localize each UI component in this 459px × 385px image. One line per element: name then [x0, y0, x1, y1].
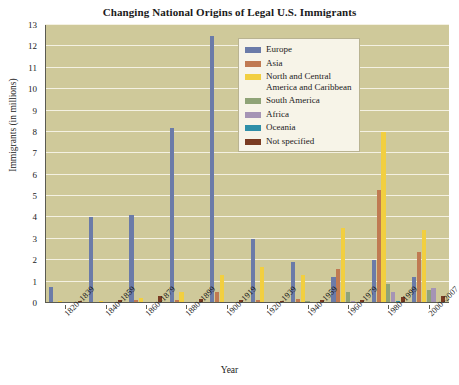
- bar: [210, 36, 214, 303]
- y-axis-tick-label: 5: [33, 191, 38, 201]
- bar: [175, 300, 179, 303]
- legend-swatch-icon: [245, 139, 261, 145]
- bar: [301, 275, 305, 303]
- legend-item[interactable]: North and Central America and Caribbean: [245, 71, 353, 92]
- chart-legend: EuropeAsiaNorth and Central America and …: [238, 38, 360, 152]
- bar: [139, 298, 143, 303]
- legend-label: Oceania: [266, 122, 295, 133]
- bar-group: [45, 25, 85, 303]
- y-axis-tick-label: 2: [33, 255, 38, 265]
- bar: [58, 301, 62, 303]
- legend-swatch-icon: [245, 61, 261, 67]
- legend-swatch-icon: [245, 125, 261, 131]
- bar: [134, 300, 138, 303]
- legend-item[interactable]: Africa: [245, 109, 353, 120]
- bar-group: [85, 25, 125, 303]
- bar: [386, 284, 390, 303]
- legend-swatch-icon: [245, 47, 261, 53]
- legend-item[interactable]: Asia: [245, 58, 353, 69]
- legend-swatch-icon: [245, 98, 261, 104]
- bar: [225, 302, 229, 303]
- bar-group: [126, 25, 166, 303]
- bar-group: [166, 25, 206, 303]
- bar: [377, 190, 381, 303]
- bar: [346, 292, 350, 303]
- bar: [170, 128, 174, 303]
- legend-label: North and Central America and Caribbean: [266, 71, 353, 92]
- y-axis-tick-label: 4: [33, 212, 38, 222]
- y-axis-tick-label: 11: [28, 63, 37, 73]
- x-axis-ticks: 1820–18391840–18591860–18791880–18991900…: [45, 305, 449, 363]
- bar: [265, 302, 269, 303]
- bar: [422, 230, 426, 303]
- chart-title: Changing National Origins of Legal U.S. …: [0, 6, 459, 18]
- y-axis-tick-label: 9: [33, 106, 38, 116]
- y-axis-tick-label: 3: [33, 234, 38, 244]
- legend-label: South America: [266, 95, 320, 106]
- bar: [417, 252, 421, 303]
- y-axis-tick-label: 10: [28, 84, 37, 94]
- legend-label: Africa: [266, 109, 289, 120]
- y-axis-title: Immigrants (in millions): [8, 50, 18, 200]
- chart-figure: Changing National Origins of Legal U.S. …: [0, 0, 459, 385]
- legend-item[interactable]: Not specified: [245, 136, 353, 147]
- legend-label: Not specified: [266, 136, 314, 147]
- y-axis-tick-label: 7: [33, 148, 38, 158]
- y-axis-tick-label: 1: [33, 277, 38, 287]
- bar: [49, 287, 53, 303]
- y-axis-tick-label: 8: [33, 127, 38, 137]
- bar: [220, 275, 224, 303]
- bar: [215, 292, 219, 303]
- y-axis-tick-label: 6: [33, 170, 38, 180]
- y-axis-tick-label: 13: [28, 20, 37, 30]
- bar: [305, 301, 309, 303]
- bar-group: [409, 25, 449, 303]
- bar: [341, 228, 345, 303]
- legend-swatch-icon: [245, 112, 261, 118]
- y-axis-tick-label: 12: [28, 41, 37, 51]
- bar: [179, 292, 183, 303]
- y-axis-tick-label: 0: [33, 298, 38, 308]
- legend-item[interactable]: Oceania: [245, 122, 353, 133]
- bar: [256, 300, 260, 303]
- bar: [336, 269, 340, 303]
- legend-item[interactable]: Europe: [245, 44, 353, 55]
- legend-swatch-icon: [245, 74, 261, 80]
- bar-group: [368, 25, 408, 303]
- bar: [381, 132, 385, 303]
- bar: [427, 290, 431, 303]
- bar: [260, 267, 264, 303]
- bar: [296, 299, 300, 303]
- legend-label: Asia: [266, 58, 283, 69]
- y-axis-ticks: 012345678910111213: [0, 25, 41, 303]
- x-axis-title: Year: [0, 365, 459, 375]
- bar: [99, 301, 103, 303]
- legend-item[interactable]: South America: [245, 95, 353, 106]
- legend-label: Europe: [266, 44, 292, 55]
